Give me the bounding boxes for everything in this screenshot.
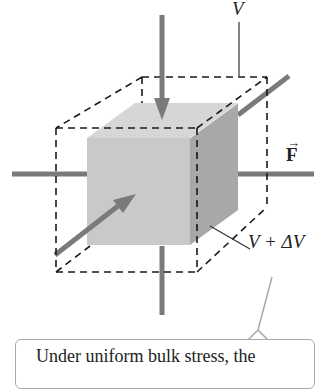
diagonal-force-arrow-back [238,76,289,115]
force-label: → F [286,144,298,166]
callout-pointer [248,277,272,340]
cube [87,103,238,245]
volume-label: V [232,0,244,20]
vector-arrow-icon: → [287,135,300,151]
cube-front-face [87,138,190,245]
vertical-force-arrow-top [154,15,170,120]
callout-text: Under uniform bulk stress, the [36,346,255,367]
new-volume-label: V + ΔV [248,231,304,253]
